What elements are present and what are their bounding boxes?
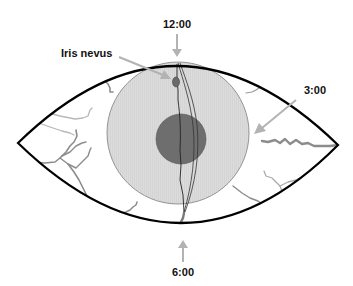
vessel xyxy=(62,142,86,156)
vessel xyxy=(262,139,338,146)
vessel xyxy=(32,130,77,163)
pupil xyxy=(156,114,206,164)
arrow-12-oclock xyxy=(172,34,182,57)
vessel xyxy=(36,122,74,135)
eye-diagram: 12:00 3:00 6:00 Iris nevus xyxy=(0,0,353,286)
arrow-6-oclock xyxy=(178,240,188,262)
label-6-oclock: 6:00 xyxy=(172,266,194,278)
arrow-3-oclock xyxy=(254,100,296,134)
label-12-oclock: 12:00 xyxy=(163,18,191,30)
label-iris-nevus: Iris nevus xyxy=(61,47,112,59)
label-3-oclock: 3:00 xyxy=(304,84,326,96)
vessel xyxy=(68,164,90,200)
vessel xyxy=(60,148,91,168)
iris-nevus xyxy=(173,77,180,87)
